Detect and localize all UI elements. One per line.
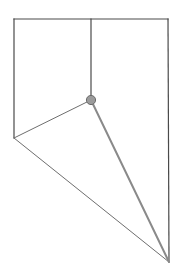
geometric-figure-canvas	[0, 0, 179, 272]
pivot-node-circle[interactable]	[86, 95, 95, 104]
canvas-background	[0, 0, 179, 272]
nodes-layer	[86, 95, 95, 104]
